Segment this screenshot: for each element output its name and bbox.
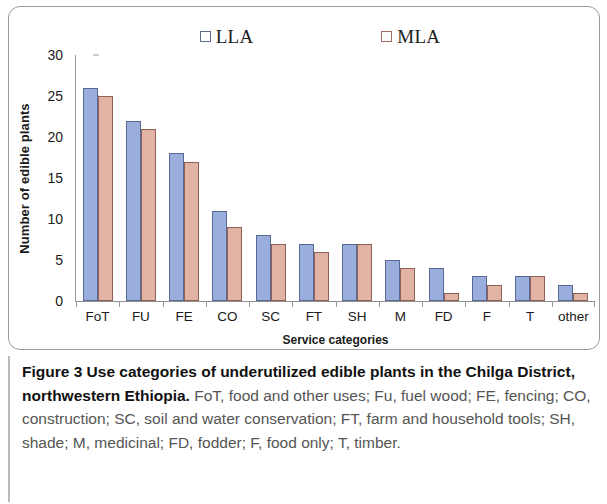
bar-mla <box>227 227 242 301</box>
y-tick-label: 20 <box>47 129 63 145</box>
y-tick-label: 0 <box>55 293 63 309</box>
legend-item-lla: LLA <box>200 27 254 46</box>
x-tick-mark <box>465 301 466 307</box>
x-tick-label: SC <box>249 309 292 331</box>
y-tick-label: 10 <box>47 211 63 227</box>
bar-group <box>336 55 379 301</box>
x-tick-mark <box>509 301 510 307</box>
x-tick-mark <box>594 301 595 307</box>
bar-group <box>379 55 422 301</box>
x-tick-label: CO <box>206 309 249 331</box>
bar-group <box>76 55 119 301</box>
bar-lla <box>429 268 444 301</box>
y-tick-label: 25 <box>47 88 63 104</box>
figure-caption: Figure 3 Use categories of underutilized… <box>22 360 592 454</box>
y-axis-title-text: Number of edible plants <box>17 103 32 253</box>
bar-lla <box>299 244 314 301</box>
bar-lla <box>169 153 184 301</box>
x-axis-labels: FoTFUFECOSCFTSHMFDFTother <box>76 309 595 331</box>
x-tick-label: FoT <box>76 309 119 331</box>
x-tick-mark <box>292 301 293 307</box>
plot-area: Number of edible plants 051015202530 FoT… <box>9 55 601 351</box>
x-tick-mark <box>76 301 77 307</box>
x-tick-mark <box>206 301 207 307</box>
bar-lla <box>256 235 271 301</box>
y-axis-title: Number of edible plants <box>13 55 35 301</box>
legend-label-mla: MLA <box>397 27 440 46</box>
x-tick-mark <box>163 301 164 307</box>
bar-group <box>163 55 206 301</box>
bar-mla <box>357 244 372 301</box>
x-tick-label: SH <box>336 309 379 331</box>
caption-rule <box>8 356 10 502</box>
x-tick-label: T <box>509 309 552 331</box>
bar-mla <box>400 268 415 301</box>
bar-lla <box>558 285 573 301</box>
bar-lla <box>342 244 357 301</box>
x-tick-label: other <box>552 309 595 331</box>
bar-mla <box>314 252 329 301</box>
bar-mla <box>271 244 286 301</box>
chart-frame: LLA MLA Number of edible plants 05101520… <box>8 6 600 350</box>
bar-group <box>465 55 508 301</box>
bar-group <box>509 55 552 301</box>
bar-mla <box>184 162 199 301</box>
x-tick-label: M <box>379 309 422 331</box>
y-tick-label: 30 <box>47 47 63 63</box>
chart-legend: LLA MLA <box>9 21 601 51</box>
bar-lla <box>515 276 530 301</box>
x-tick-mark <box>379 301 380 307</box>
bar-lla <box>83 88 98 301</box>
x-tick-label: FD <box>422 309 465 331</box>
x-tick-label: FT <box>292 309 335 331</box>
x-tick-label: FE <box>163 309 206 331</box>
bar-mla <box>98 96 113 301</box>
x-tick-mark <box>119 301 120 307</box>
bar-group <box>292 55 335 301</box>
bar-group <box>119 55 162 301</box>
x-axis-title: Service categories <box>76 333 595 347</box>
y-axis-ticks: 051015202530 <box>33 55 69 301</box>
figure-caption-label: Figure 3 <box>22 363 82 380</box>
figure-3: LLA MLA Number of edible plants 05101520… <box>0 0 607 504</box>
bar-mla <box>573 293 588 301</box>
x-tick-label: FU <box>119 309 162 331</box>
bar-group <box>552 55 595 301</box>
legend-item-mla: MLA <box>381 27 440 46</box>
bar-mla <box>141 129 156 301</box>
legend-swatch-lla-icon <box>200 31 211 42</box>
legend-swatch-mla-icon <box>381 31 392 42</box>
bar-mla <box>530 276 545 301</box>
x-tick-mark <box>552 301 553 307</box>
bar-mla <box>444 293 459 301</box>
bar-lla <box>472 276 487 301</box>
x-tick-mark <box>249 301 250 307</box>
x-tick-mark <box>422 301 423 307</box>
bar-group <box>206 55 249 301</box>
legend-label-lla: LLA <box>216 27 254 46</box>
bars-area <box>76 55 595 301</box>
x-tick-label: F <box>465 309 508 331</box>
bar-group <box>249 55 292 301</box>
bar-lla <box>126 121 141 301</box>
y-tick-label: 15 <box>47 170 63 186</box>
bar-lla <box>385 260 400 301</box>
bar-mla <box>487 285 502 301</box>
y-tick-label: 5 <box>55 252 63 268</box>
bar-lla <box>212 211 227 301</box>
bar-group <box>422 55 465 301</box>
x-tick-mark <box>336 301 337 307</box>
